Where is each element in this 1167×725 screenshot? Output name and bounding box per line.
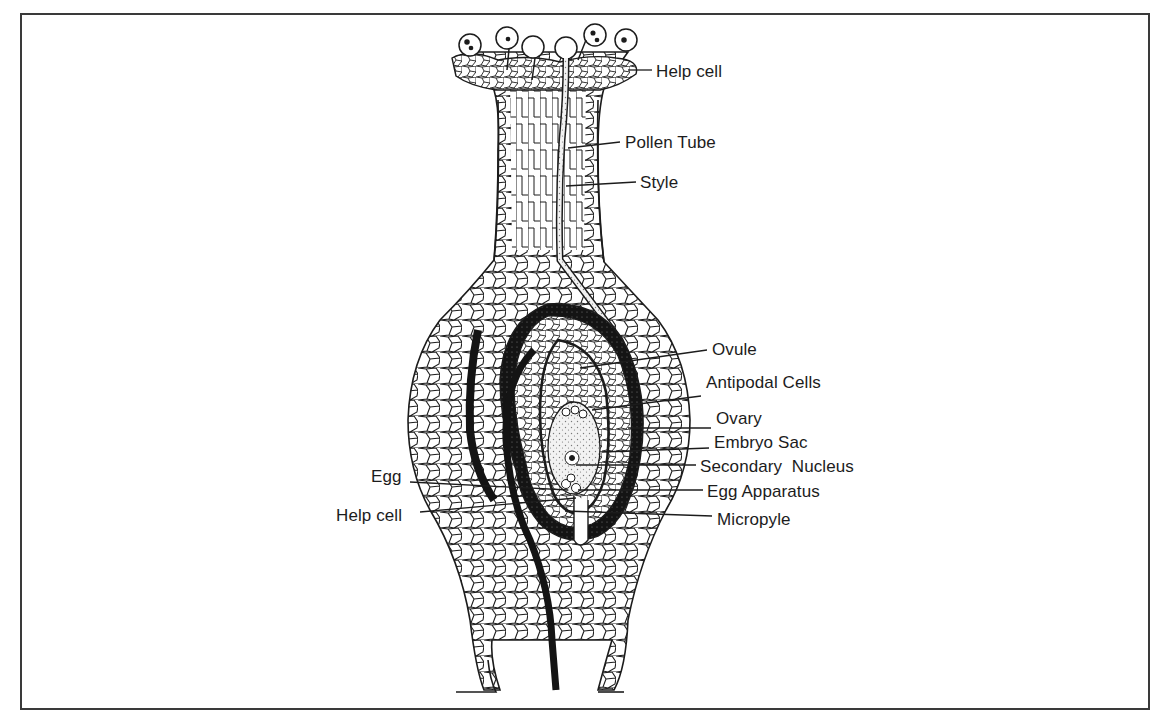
label-egg: Egg [371, 468, 402, 485]
label-help-cell-top: Help cell [656, 63, 722, 80]
label-pollen-tube: Pollen Tube [625, 134, 716, 151]
label-egg-apparatus: Egg Apparatus [707, 483, 820, 500]
label-ovary: Ovary [716, 410, 762, 427]
label-antipodal-cells: Antipodal Cells [706, 374, 821, 391]
label-secondary-nucleus: Secondary Nucleus [700, 458, 854, 475]
label-ovule: Ovule [712, 341, 757, 358]
label-style: Style [640, 174, 678, 191]
label-embryo-sac: Embryo Sac [714, 434, 808, 451]
pistil-diagram [0, 0, 1167, 725]
label-help-cell-bottom: Help cell [336, 507, 402, 524]
stigma [452, 53, 637, 90]
label-micropyle: Micropyle [717, 511, 791, 528]
